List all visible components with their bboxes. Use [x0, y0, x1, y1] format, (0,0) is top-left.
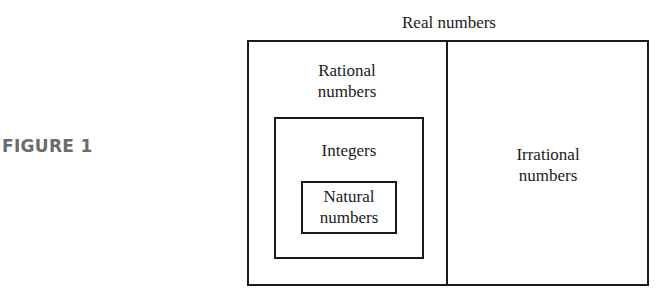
rational-numbers-label: Rational numbers	[272, 60, 422, 102]
integers-label: Integers	[274, 140, 424, 161]
real-numbers-title: Real numbers	[349, 12, 549, 33]
rational-irrational-divider	[446, 40, 448, 286]
irrational-numbers-label: Irrational numbers	[473, 144, 623, 186]
figure-label: FIGURE 1	[2, 136, 93, 156]
rational-label-line2: numbers	[272, 81, 422, 102]
natural-numbers-label: Natural numbers	[301, 186, 397, 228]
irrational-label-line2: numbers	[473, 165, 623, 186]
natural-label-line2: numbers	[301, 207, 397, 228]
rational-label-line1: Rational	[272, 60, 422, 81]
natural-label-line1: Natural	[301, 186, 397, 207]
irrational-label-line1: Irrational	[473, 144, 623, 165]
